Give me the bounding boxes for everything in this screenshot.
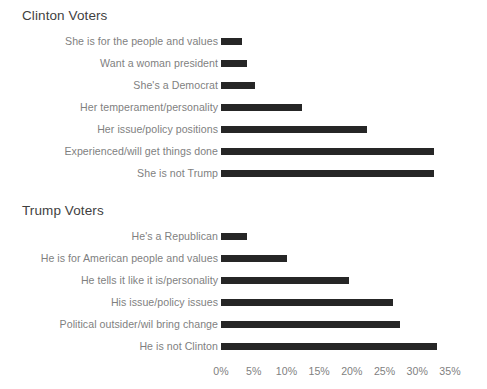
bar (221, 233, 247, 240)
category-label: She's a Democrat (133, 74, 218, 96)
bar (221, 82, 255, 89)
bar (221, 299, 393, 306)
bar-row: Her issue/policy positions (0, 118, 487, 140)
bar-row: He's a Republican (0, 225, 487, 247)
category-label: His issue/policy issues (111, 291, 218, 313)
bar (221, 126, 367, 133)
bar (221, 277, 349, 284)
x-tick-label: 0% (213, 365, 228, 377)
x-axis-tick-labels: 0%5%10%15%20%25%30%35% (0, 365, 487, 383)
bar-row: He tells it like it is/personality (0, 269, 487, 291)
bar (221, 148, 434, 155)
x-tick-label: 25% (374, 365, 395, 377)
bar (221, 321, 400, 328)
category-label: He's a Republican (132, 225, 219, 247)
category-label: Want a woman president (100, 52, 218, 74)
x-tick-label: 30% (407, 365, 428, 377)
bar-row: She is not Trump (0, 162, 487, 184)
category-label: He is not Clinton (139, 335, 218, 357)
x-tick-label: 5% (246, 365, 261, 377)
x-tick-label: 10% (276, 365, 297, 377)
x-tick-label: 20% (341, 365, 362, 377)
category-label: Her issue/policy positions (97, 118, 218, 140)
trump-plot-area: He's a RepublicanHe is for American peop… (0, 195, 487, 389)
bar (221, 104, 302, 111)
bar-row: Political outsider/wil bring change (0, 313, 487, 335)
bar-row: She is for the people and values (0, 30, 487, 52)
bar-row: Her temperament/personality (0, 96, 487, 118)
trump-voters-chart: Trump Voters He's a RepublicanHe is for … (0, 195, 487, 389)
bar-row: Want a woman president (0, 52, 487, 74)
clinton-voters-chart: Clinton Voters She is for the people and… (0, 0, 487, 195)
category-label: Political outsider/wil bring change (60, 313, 218, 335)
bar (221, 60, 247, 67)
category-label: Experienced/will get things done (64, 140, 218, 162)
category-label: Her temperament/personality (80, 96, 218, 118)
bar-row: She's a Democrat (0, 74, 487, 96)
category-label: He is for American people and values (41, 247, 218, 269)
x-tick-label: 35% (439, 365, 460, 377)
category-label: He tells it like it is/personality (81, 269, 218, 291)
bar (221, 343, 437, 350)
clinton-plot-area: She is for the people and valuesWant a w… (0, 0, 487, 195)
bar-row: He is not Clinton (0, 335, 487, 357)
x-tick-label: 15% (308, 365, 329, 377)
bar (221, 170, 434, 177)
bar (221, 38, 242, 45)
category-label: She is not Trump (137, 162, 218, 184)
category-label: She is for the people and values (65, 30, 218, 52)
bar-row: His issue/policy issues (0, 291, 487, 313)
bar-row: He is for American people and values (0, 247, 487, 269)
bar-row: Experienced/will get things done (0, 140, 487, 162)
bar (221, 255, 287, 262)
